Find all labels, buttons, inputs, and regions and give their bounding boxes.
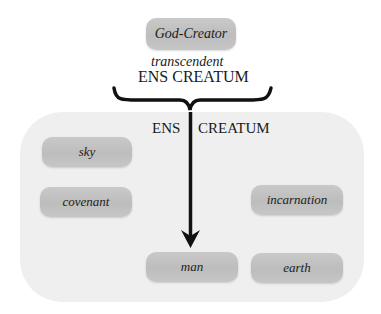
- node-incarnation: incarnation: [251, 185, 343, 215]
- curly-brace-icon: [114, 88, 271, 110]
- node-label: man: [181, 259, 203, 275]
- node-label: incarnation: [267, 192, 328, 208]
- node-label: sky: [79, 144, 96, 160]
- node-earth: earth: [251, 253, 343, 283]
- node-covenant: covenant: [40, 187, 132, 217]
- node-label: covenant: [63, 194, 110, 210]
- node-label: earth: [283, 260, 310, 276]
- node-man: man: [146, 252, 238, 282]
- node-sky: sky: [42, 137, 132, 167]
- diagram-canvas: God-Creator transcendent ENS CREATUM ENS…: [0, 0, 381, 314]
